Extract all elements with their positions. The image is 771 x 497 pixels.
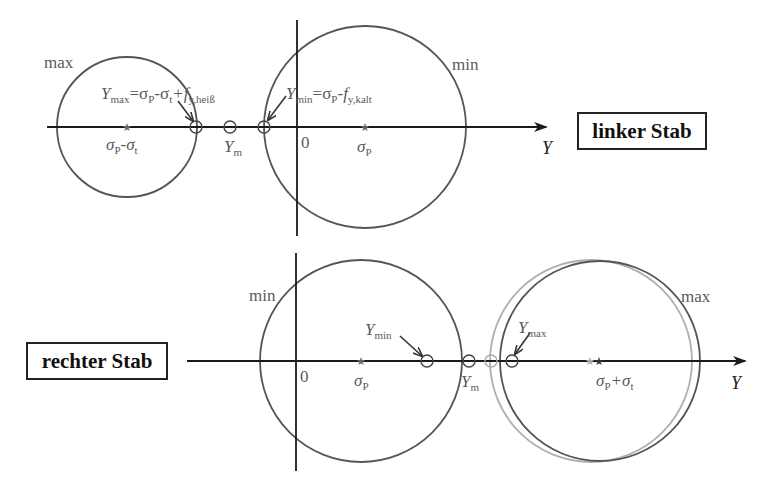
- star-icon: ★: [122, 121, 132, 133]
- max-label: max: [44, 53, 74, 72]
- origin-label: 0: [300, 367, 309, 386]
- right-bar-title: rechter Stab: [26, 342, 168, 380]
- star-icon: ★: [594, 355, 604, 367]
- min-label: min: [249, 286, 276, 305]
- max-label: max: [681, 287, 711, 306]
- ymax-label: Ymax: [518, 318, 547, 339]
- center-min-label: σP: [354, 371, 369, 392]
- ymin-equation: Ymin=σP-fy,kalt: [286, 84, 372, 105]
- ymin-pointer-arrow: [268, 96, 286, 120]
- ym-label: Ym: [461, 372, 479, 393]
- origin-label: 0: [301, 133, 310, 152]
- left-bar-panel: ★ ★ max min Ymax=σP-σt+fy,heiß Ymin=σP-f…: [44, 20, 554, 236]
- ym-label: Ym: [224, 137, 242, 158]
- right-bar-panel: ★ ★ ★ min max Ymin Ymax 0 σP Ym σP+σt Y: [187, 253, 745, 471]
- y-axis-label: Y: [542, 138, 554, 158]
- y-axis-label: Y: [731, 373, 743, 393]
- star-icon: ★: [356, 355, 366, 367]
- ymax-equation: Ymax=σP-σt+fy,heiß: [101, 84, 215, 105]
- ymin-pointer-arrow: [400, 336, 422, 356]
- star-icon: ★: [360, 121, 370, 133]
- left-bar-title: linker Stab: [577, 112, 707, 150]
- min-label: min: [452, 55, 479, 74]
- stress-circle-diagram: ★ ★ max min Ymax=σP-σt+fy,heiß Ymin=σP-f…: [0, 0, 771, 497]
- center-min-label: σP: [357, 137, 372, 158]
- center-max-label: σP-σt: [106, 135, 138, 156]
- ymin-label: Ymin: [365, 320, 392, 341]
- center-max-label: σP+σt: [596, 371, 633, 392]
